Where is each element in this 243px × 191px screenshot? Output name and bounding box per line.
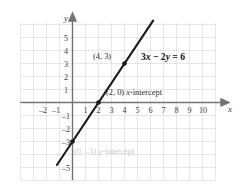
y-tick-label: –2 <box>61 125 70 134</box>
x-tick-label: 2 <box>96 106 100 115</box>
y-intercept-coord: (0, –3) <box>74 147 98 156</box>
y-tick-label: 1 <box>64 86 68 95</box>
y-intercept-label: (0, –3) y-intercept <box>74 147 135 156</box>
x-axis-label: x <box>227 104 232 114</box>
y-axis-arrowhead <box>69 13 76 21</box>
equation-operator: − <box>151 51 161 62</box>
x-tick-label: 10 <box>199 106 207 115</box>
x-tick-label: 3 <box>109 106 113 115</box>
y-tick-label: 2 <box>64 73 68 82</box>
x-tick-label: 1 <box>83 106 87 115</box>
grid-lines <box>21 23 216 181</box>
x-tick-label: 8 <box>174 106 178 115</box>
x-tick-label: 6 <box>148 106 152 115</box>
x-tick-label: 7 <box>161 106 165 115</box>
x-intercept-label: (2, 0) x-intercept <box>106 88 163 97</box>
y-tick-label: 3 <box>64 60 68 69</box>
x-tick-label: –2 <box>38 106 47 115</box>
y-tick-label: –5 <box>61 164 70 173</box>
y-tick-label: –1 <box>61 112 70 121</box>
x-intercept-coord: (2, 0) <box>106 88 126 97</box>
coordinate-plane-svg: y x –2 –1 1 2 3 4 5 6 7 8 9 10 5 4 3 2 1… <box>0 0 243 191</box>
x-tick-label: 4 <box>122 106 126 115</box>
y-tick-label: 5 <box>64 34 68 43</box>
point-marker-0-neg3 <box>70 139 75 144</box>
y-tick-label: 4 <box>64 47 68 56</box>
y-tick-label: –3 <box>61 138 70 147</box>
x-tick-label: 9 <box>187 106 191 115</box>
graph-figure: y x –2 –1 1 2 3 4 5 6 7 8 9 10 5 4 3 2 1… <box>0 0 243 191</box>
x-intercept-tail: -intercept <box>130 88 163 97</box>
equation-rhs: 6 <box>180 51 185 62</box>
x-tick-label: –1 <box>51 106 60 115</box>
x-tick-label: 5 <box>135 106 139 115</box>
point-label-4-3: (4, 3) <box>93 52 111 61</box>
point-marker-2-0 <box>96 100 101 105</box>
point-marker-4-3 <box>122 61 127 66</box>
equation-label: 3x − 2y = 6 <box>141 51 185 62</box>
equation-equals: = <box>170 51 180 62</box>
y-axis-label: y <box>63 13 68 23</box>
y-intercept-tail: -intercept <box>102 147 135 156</box>
point-label-4-3-text: (4, 3) <box>93 52 111 61</box>
